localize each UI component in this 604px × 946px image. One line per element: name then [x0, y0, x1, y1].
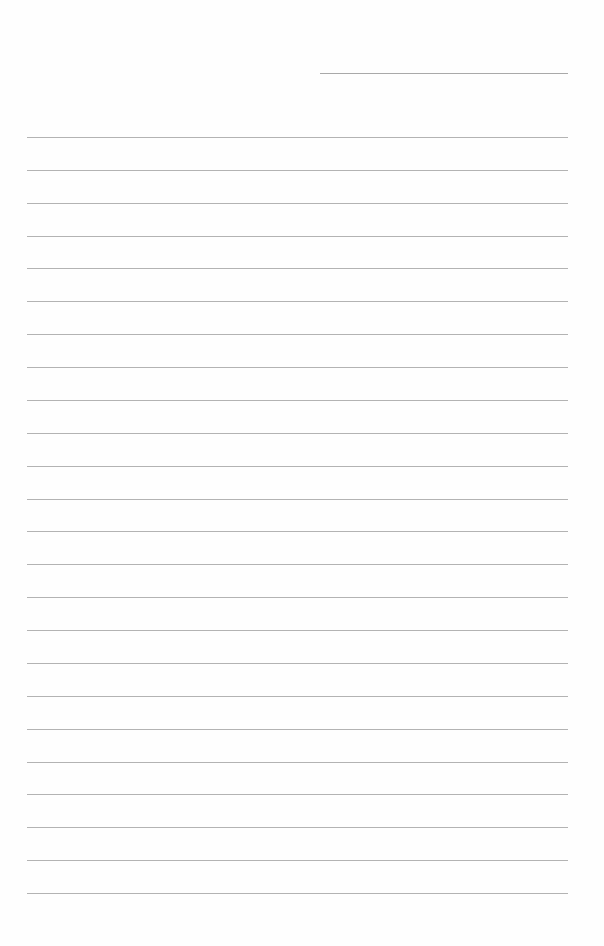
ruled-line — [27, 531, 568, 532]
ruled-line — [27, 170, 568, 171]
ruled-line — [27, 696, 568, 697]
ruled-line — [27, 466, 568, 467]
ruled-line — [27, 400, 568, 401]
ruled-line — [27, 301, 568, 302]
lined-paper-page — [0, 0, 604, 946]
ruled-line — [27, 663, 568, 664]
ruled-line — [27, 236, 568, 237]
ruled-line — [27, 433, 568, 434]
ruled-line — [27, 762, 568, 763]
ruled-line — [27, 729, 568, 730]
ruled-line — [27, 203, 568, 204]
ruled-line — [27, 367, 568, 368]
ruled-line — [27, 630, 568, 631]
ruled-line — [27, 860, 568, 861]
ruled-line — [27, 334, 568, 335]
ruled-line — [27, 794, 568, 795]
ruled-line — [27, 499, 568, 500]
ruled-line — [27, 137, 568, 138]
ruled-line — [27, 827, 568, 828]
ruled-line — [27, 268, 568, 269]
header-date-line — [320, 73, 568, 74]
ruled-line — [27, 597, 568, 598]
ruled-line — [27, 564, 568, 565]
ruled-line — [27, 893, 568, 894]
